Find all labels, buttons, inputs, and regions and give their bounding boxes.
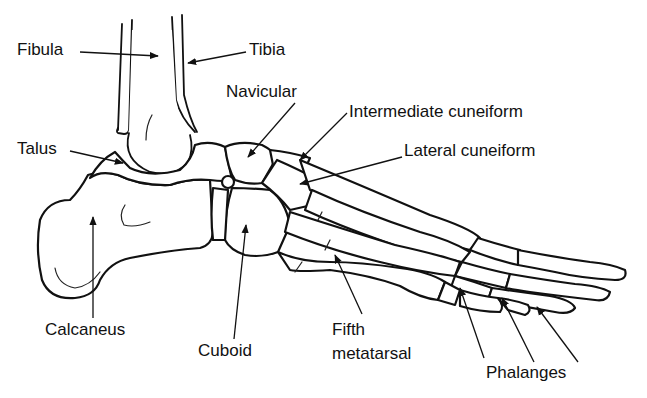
label-lateral-cuneiform: Lateral cuneiform <box>404 141 535 161</box>
tibia-leader <box>188 52 246 63</box>
intermediate-cuneiform-leader <box>300 113 347 160</box>
label-navicular: Navicular <box>226 82 297 102</box>
label-fifth-metatarsal-line2: metatarsal <box>332 344 411 364</box>
tibia-bone <box>127 15 197 174</box>
label-intermediate-cuneiform: Intermediate cuneiform <box>349 102 523 122</box>
label-tibia: Tibia <box>249 40 285 60</box>
label-cuboid: Cuboid <box>198 341 252 361</box>
calcaneus-bone <box>38 173 213 299</box>
label-fifth-metatarsal-line1: Fifth <box>332 320 365 340</box>
label-talus: Talus <box>17 139 57 159</box>
navicular-leader <box>248 103 295 157</box>
label-fibula: Fibula <box>17 40 63 60</box>
label-calcaneus: Calcaneus <box>45 320 125 340</box>
small-joint-bone <box>222 176 234 188</box>
metatarsal-bones <box>278 160 480 300</box>
label-phalanges: Phalanges <box>486 363 566 383</box>
phalanges-leader-3 <box>537 307 578 362</box>
